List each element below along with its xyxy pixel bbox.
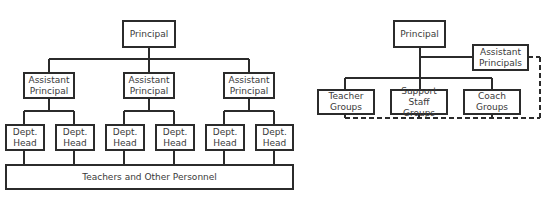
teachers-personnel-box: Teachers and Other Personnel	[5, 164, 294, 190]
principal-box-right: Principal	[393, 20, 446, 48]
dept-head-box: Dept. Head	[105, 124, 145, 151]
coach-groups-box: Coach Groups	[463, 89, 521, 115]
support-staff-groups-box: Support Staff Groups	[390, 89, 448, 115]
dept-head-box: Dept. Head	[55, 124, 95, 151]
assistant-principal-box: Assistant Principal	[123, 72, 175, 99]
assistant-principal-box: Assistant Principal	[23, 72, 75, 99]
dept-head-box: Dept. Head	[5, 124, 45, 151]
principal-box: Principal	[122, 20, 176, 48]
dept-head-box: Dept. Head	[255, 124, 294, 151]
teacher-groups-box: Teacher Groups	[317, 89, 375, 115]
dept-head-box: Dept. Head	[205, 124, 245, 151]
dept-head-box: Dept. Head	[155, 124, 195, 151]
assistant-principals-box: Assistant Principals	[472, 44, 529, 71]
assistant-principal-box: Assistant Principal	[223, 72, 275, 99]
